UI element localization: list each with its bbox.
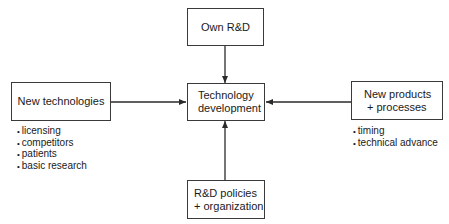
node-left-label: New technologies <box>18 95 105 108</box>
node-technology-development: Technology development <box>187 83 265 121</box>
node-rd-policies: R&D policies + organization <box>187 180 265 219</box>
node-bottom-line-2: + organization <box>194 200 263 213</box>
node-bottom-line-1: R&D policies <box>194 187 257 200</box>
node-new-technologies: New technologies <box>11 82 111 121</box>
node-right-line-1: New products <box>364 88 431 101</box>
bullet-item: basic research <box>17 161 87 173</box>
bullet-item: licensing <box>17 126 87 138</box>
bullet-item: timing <box>353 126 438 138</box>
node-new-products: New products + processes <box>351 81 443 120</box>
new-products-bullets: timing technical advance <box>353 126 438 149</box>
node-center-line-1: Technology <box>198 89 254 102</box>
node-center-line-2: development <box>198 102 261 115</box>
node-own-rd-label: Own R&D <box>201 21 250 34</box>
new-technologies-bullets: licensing competitors patients basic res… <box>17 126 87 172</box>
node-own-rd: Own R&D <box>187 8 264 46</box>
node-right-line-2: + processes <box>364 101 427 114</box>
bullet-item: patients <box>17 149 87 161</box>
bullet-item: technical advance <box>353 138 438 150</box>
